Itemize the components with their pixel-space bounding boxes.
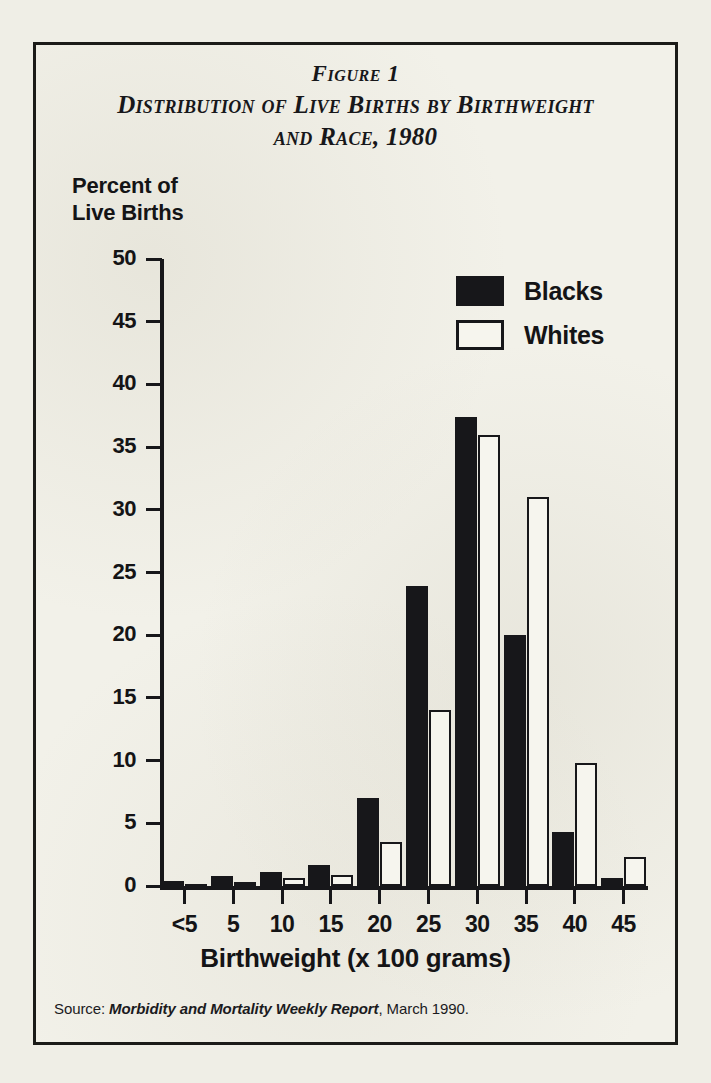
y-axis-tick-25	[146, 571, 162, 574]
y-axis-label-25: 25	[64, 559, 136, 585]
source-prefix: Source:	[54, 1000, 105, 1017]
legend-swatch-blacks	[456, 276, 504, 306]
y-axis-tick-40	[146, 383, 162, 386]
plot-area: 50454035302520151050 <551015202530354045	[36, 45, 675, 1042]
legend-item-blacks: Blacks	[456, 271, 686, 311]
x-axis-tick-40	[573, 890, 576, 904]
bar-blacks-10	[260, 872, 282, 886]
x-axis-tick-<5	[183, 890, 186, 904]
x-axis-tick-25	[427, 890, 430, 904]
bar-whites-25	[429, 710, 451, 886]
bar-blacks-20	[357, 798, 379, 886]
source-suffix: , March 1990.	[378, 1000, 468, 1017]
bar-whites-10	[283, 878, 305, 886]
bar-blacks-25	[406, 586, 428, 886]
y-axis-tick-15	[146, 696, 162, 699]
x-axis-label-45: 45	[584, 911, 664, 938]
y-axis-label-10: 10	[64, 747, 136, 773]
y-axis-tick-5	[146, 822, 162, 825]
legend-label-whites: Whites	[524, 321, 604, 350]
legend-swatch-whites	[456, 320, 504, 350]
x-axis-tick-45	[622, 890, 625, 904]
x-axis-title: Birthweight (x 100 grams)	[36, 943, 675, 974]
figure-frame: Figure 1 Distribution of Live Births by …	[33, 42, 678, 1045]
y-axis-tick-10	[146, 759, 162, 762]
x-axis-tick-20	[378, 890, 381, 904]
y-axis-label-45: 45	[64, 308, 136, 334]
x-axis-tick-15	[329, 890, 332, 904]
y-axis-label-0: 0	[64, 872, 136, 898]
x-axis-tick-10	[281, 890, 284, 904]
bar-blacks-30	[455, 417, 477, 886]
chart-legend: BlacksWhites	[456, 271, 686, 359]
y-axis-tick-20	[146, 634, 162, 637]
y-axis-label-40: 40	[64, 370, 136, 396]
y-axis-tick-0	[146, 885, 162, 888]
y-axis-tick-45	[146, 320, 162, 323]
source-note: Source: Morbidity and Mortality Weekly R…	[54, 1000, 469, 1017]
bar-blacks-40	[552, 832, 574, 886]
y-axis-line	[160, 259, 164, 890]
x-axis-tick-5	[232, 890, 235, 904]
y-axis-tick-50	[146, 258, 162, 261]
bar-blacks-<5	[162, 881, 184, 886]
y-axis-label-5: 5	[64, 809, 136, 835]
bar-whites-15	[331, 875, 353, 886]
y-axis-label-50: 50	[64, 245, 136, 271]
bar-blacks-35	[504, 635, 526, 886]
legend-label-blacks: Blacks	[524, 277, 603, 306]
bar-whites-<5	[185, 884, 207, 888]
y-axis-label-15: 15	[64, 684, 136, 710]
bar-whites-40	[575, 763, 597, 886]
source-publication: Morbidity and Mortality Weekly Report	[109, 1000, 378, 1017]
bar-whites-45	[624, 857, 646, 886]
bar-whites-5	[234, 882, 256, 886]
bar-blacks-5	[211, 876, 233, 886]
y-axis-tick-35	[146, 446, 162, 449]
figure-page: Figure 1 Distribution of Live Births by …	[0, 0, 711, 1083]
bar-blacks-45	[601, 878, 623, 886]
bar-whites-30	[478, 435, 500, 886]
y-axis-label-20: 20	[64, 621, 136, 647]
bar-blacks-15	[308, 865, 330, 886]
x-axis-tick-35	[525, 890, 528, 904]
x-axis-tick-30	[476, 890, 479, 904]
bar-whites-20	[380, 842, 402, 886]
bar-whites-35	[527, 497, 549, 886]
y-axis-tick-30	[146, 508, 162, 511]
y-axis-label-35: 35	[64, 433, 136, 459]
y-axis-label-30: 30	[64, 496, 136, 522]
legend-item-whites: Whites	[456, 315, 686, 355]
